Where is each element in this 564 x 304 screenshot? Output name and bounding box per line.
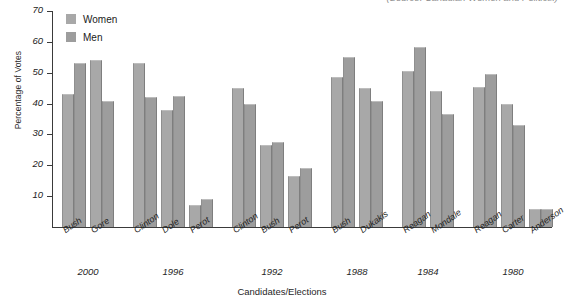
- bar-women: [430, 91, 442, 227]
- legend-swatch-men: [66, 32, 76, 42]
- bar-women: [359, 88, 371, 227]
- y-axis-tick-label: 40: [32, 97, 43, 108]
- bar-women: [133, 63, 145, 227]
- legend-item-men: Men: [66, 29, 156, 45]
- bar-chart-figure: (Source: Canadian Women and Politics.) P…: [0, 0, 564, 304]
- bar-women: [260, 145, 272, 227]
- legend-label: Men: [83, 32, 102, 43]
- legend-item-women: Women: [66, 11, 156, 27]
- year-label: 2000: [77, 266, 98, 277]
- bar-men: [173, 96, 185, 227]
- year-label: 1988: [346, 266, 367, 277]
- bar-men: [485, 74, 497, 227]
- legend: WomenMen: [66, 11, 156, 47]
- bar-men: [343, 57, 355, 227]
- y-axis-tick: 50: [20, 73, 52, 74]
- y-axis-tick-label: 50: [32, 66, 43, 77]
- y-axis-tick-label: 30: [32, 127, 43, 138]
- y-axis-tick-label: 70: [32, 4, 43, 15]
- y-axis-tick: 20: [20, 165, 52, 166]
- y-axis-tick: 10: [20, 196, 52, 197]
- bar-men: [513, 125, 525, 227]
- bar-men: [145, 97, 157, 227]
- bar-women: [161, 110, 173, 227]
- y-axis-tick: 40: [20, 104, 52, 105]
- year-label: 1992: [261, 266, 282, 277]
- bar-men: [371, 101, 383, 228]
- x-axis-year-labels: 200019961992198819841980: [52, 266, 552, 282]
- bar-men: [414, 47, 426, 228]
- bar-women: [331, 77, 343, 227]
- y-axis-tick: 30: [20, 134, 52, 135]
- bar-women: [90, 60, 102, 227]
- bar-women: [402, 71, 414, 227]
- bar-men: [102, 101, 114, 228]
- y-axis-tick-label: 10: [32, 189, 43, 200]
- bar-men: [272, 142, 284, 227]
- year-label: 1984: [417, 266, 438, 277]
- y-axis-tick: 60: [20, 42, 52, 43]
- legend-label: Women: [83, 14, 117, 25]
- caption-text: (Source: Canadian Women and Politics.): [386, 0, 558, 3]
- bar-men: [74, 63, 86, 227]
- year-label: 1996: [162, 266, 183, 277]
- bar-women: [62, 94, 74, 227]
- y-axis-tick: 70: [20, 11, 52, 12]
- bar-women: [501, 104, 513, 227]
- y-axis-tick-label: 60: [32, 35, 43, 46]
- y-axis-tick-label: 20: [32, 158, 43, 169]
- x-axis-title: Candidates/Elections: [0, 286, 564, 297]
- clipped-caption: (Source: Canadian Women and Politics.): [0, 0, 564, 4]
- bar-women: [473, 87, 485, 227]
- bar-men: [244, 104, 256, 227]
- bar-women: [232, 88, 244, 227]
- year-label: 1980: [502, 266, 523, 277]
- legend-swatch-women: [66, 14, 76, 24]
